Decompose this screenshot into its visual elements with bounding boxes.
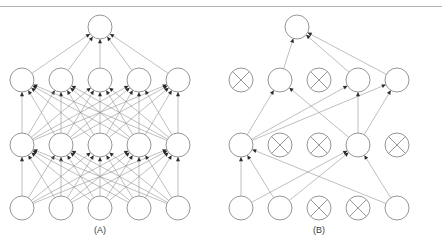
edge-arrowhead: [129, 90, 133, 95]
edge-arrowhead: [145, 155, 149, 160]
network-edge: [252, 151, 348, 203]
unit-circle: [127, 196, 151, 220]
edge-arrowhead: [289, 88, 294, 92]
unit-circle: [49, 68, 73, 92]
unit-circle: [10, 196, 34, 220]
edge-arrowhead: [168, 90, 172, 95]
edge-arrowhead: [106, 90, 110, 95]
active-unit-node: [268, 196, 292, 220]
dropped-unit-node: [385, 133, 409, 157]
unit-circle: [88, 133, 112, 157]
active-unit-node: [346, 68, 370, 92]
edge-arrowhead: [20, 92, 24, 96]
dropped-unit-node: [307, 133, 331, 157]
active-unit-node: [166, 68, 190, 92]
edge-arrowhead: [356, 92, 360, 96]
active-unit-node: [10, 196, 34, 220]
active-unit-node: [346, 133, 370, 157]
active-unit-node: [166, 196, 190, 220]
edge-arrowhead: [86, 153, 91, 157]
unit-circle: [166, 133, 190, 157]
edge-arrowhead: [90, 90, 94, 95]
edge-arrowhead: [137, 157, 141, 161]
active-unit-node: [88, 15, 112, 39]
edge-arrowhead: [290, 38, 294, 43]
unit-circle: [49, 133, 73, 157]
edge-arrowhead: [107, 37, 111, 42]
active-unit-node: [385, 68, 409, 92]
panel-label: (B): [313, 225, 325, 235]
network-edge: [247, 155, 273, 198]
edge-arrowhead: [106, 155, 110, 160]
edges-layer: [20, 33, 391, 204]
active-unit-node: [229, 196, 253, 220]
edge-arrowhead: [67, 90, 71, 95]
edge-arrowhead: [110, 34, 115, 38]
edge-arrowhead: [129, 155, 133, 160]
unit-circle: [229, 133, 253, 157]
edge-arrowhead: [176, 157, 180, 161]
dropped-unit-node: [229, 68, 253, 92]
unit-circle: [88, 68, 112, 92]
edge-arrowhead: [137, 92, 141, 96]
dropped-unit-node: [346, 196, 370, 220]
edge-arrowhead: [90, 155, 94, 160]
unit-circle: [346, 133, 370, 157]
unit-circle: [268, 196, 292, 220]
network-edge: [110, 34, 168, 74]
edge-arrowhead: [67, 155, 71, 160]
active-unit-node: [49, 133, 73, 157]
network-edge: [364, 90, 391, 134]
network-edge: [32, 34, 90, 74]
active-unit-node: [49, 196, 73, 220]
network-edge: [284, 38, 294, 68]
network-edge: [306, 35, 349, 72]
network-diagram-svg: (A)(B): [0, 0, 442, 249]
panel-b-nodes: [229, 15, 409, 220]
network-edge: [68, 37, 93, 71]
network-edge: [289, 88, 349, 138]
edge-arrowhead: [387, 90, 391, 95]
active-unit-node: [10, 133, 34, 157]
edge-arrowhead: [176, 92, 180, 96]
unit-circle: [127, 133, 151, 157]
unit-circle: [385, 68, 409, 92]
active-unit-node: [229, 133, 253, 157]
dropped-unit-node: [307, 68, 331, 92]
active-unit-node: [88, 196, 112, 220]
network-edge: [107, 37, 132, 71]
active-unit-node: [88, 133, 112, 157]
edge-arrowhead: [145, 90, 149, 95]
unit-circle: [127, 68, 151, 92]
unit-circle: [385, 196, 409, 220]
active-unit-node: [127, 68, 151, 92]
edge-arrowhead: [98, 39, 102, 43]
unit-circle: [166, 68, 190, 92]
nodes-layer: [10, 15, 409, 220]
figure-root: (A)(B): [0, 0, 442, 249]
edge-arrowhead: [20, 157, 24, 161]
network-edge: [364, 155, 390, 198]
active-unit-node: [127, 133, 151, 157]
edge-arrowhead: [98, 92, 102, 96]
unit-circle: [49, 196, 73, 220]
edge-arrowhead: [247, 155, 251, 160]
dropped-unit-node: [307, 196, 331, 220]
unit-circle: [10, 68, 34, 92]
edge-arrowhead: [109, 153, 114, 157]
edge-arrowhead: [168, 155, 172, 160]
panel-label: (A): [94, 225, 106, 235]
dropped-unit-node: [268, 133, 292, 157]
edge-arrowhead: [86, 88, 91, 92]
edge-arrowhead: [89, 37, 93, 42]
edge-arrowhead: [270, 90, 274, 95]
edge-arrowhead: [98, 157, 102, 161]
active-unit-node: [10, 68, 34, 92]
active-unit-node: [88, 68, 112, 92]
unit-circle: [88, 15, 112, 39]
edge-arrowhead: [85, 34, 90, 38]
active-unit-node: [285, 15, 309, 39]
edge-arrowhead: [239, 157, 243, 161]
network-edge: [251, 86, 347, 139]
edge-arrowhead: [364, 155, 368, 160]
